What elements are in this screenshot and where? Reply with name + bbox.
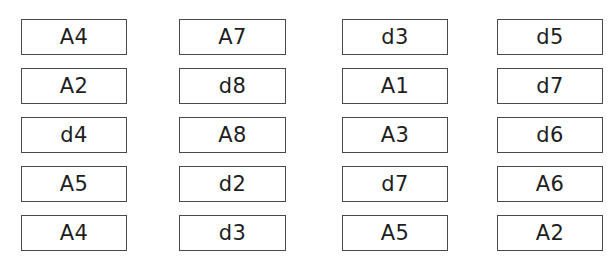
card-label: A5 <box>60 174 89 195</box>
card-r5-c3[interactable]: A5 <box>342 215 448 251</box>
card-r2-c1[interactable]: A2 <box>21 68 127 104</box>
card-label: d3 <box>219 223 247 244</box>
card-label: A2 <box>60 76 89 97</box>
card-r4-c2[interactable]: d2 <box>179 166 286 202</box>
card-r3-c3[interactable]: A3 <box>342 117 448 153</box>
card-r5-c2[interactable]: d3 <box>179 215 286 251</box>
card-label: A2 <box>536 223 565 244</box>
card-r4-c3[interactable]: d7 <box>342 166 448 202</box>
card-r3-c1[interactable]: d4 <box>21 117 127 153</box>
card-r5-c4[interactable]: A2 <box>497 215 603 251</box>
card-label: A8 <box>218 125 247 146</box>
card-r1-c4[interactable]: d5 <box>497 19 603 55</box>
card-label: A1 <box>381 76 410 97</box>
card-label: A4 <box>60 223 89 244</box>
card-r3-c2[interactable]: A8 <box>179 117 286 153</box>
card-grid: A4 A7 d3 d5 A2 d8 A1 d7 d4 A8 A3 d6 A5 d… <box>0 0 616 260</box>
card-r1-c1[interactable]: A4 <box>21 19 127 55</box>
card-label: A5 <box>381 223 410 244</box>
card-r2-c2[interactable]: d8 <box>179 68 286 104</box>
card-label: d6 <box>536 125 564 146</box>
card-r4-c4[interactable]: A6 <box>497 166 603 202</box>
card-label: d7 <box>536 76 564 97</box>
card-label: d3 <box>381 27 409 48</box>
card-label: d2 <box>219 174 247 195</box>
card-label: d4 <box>60 125 88 146</box>
card-r3-c4[interactable]: d6 <box>497 117 603 153</box>
card-label: d7 <box>381 174 409 195</box>
card-r4-c1[interactable]: A5 <box>21 166 127 202</box>
card-label: d5 <box>536 27 564 48</box>
card-r2-c3[interactable]: A1 <box>342 68 448 104</box>
card-r1-c2[interactable]: A7 <box>179 19 286 55</box>
card-label: d8 <box>219 76 247 97</box>
card-label: A3 <box>381 125 410 146</box>
card-r2-c4[interactable]: d7 <box>497 68 603 104</box>
card-label: A7 <box>218 27 247 48</box>
card-label: A4 <box>60 27 89 48</box>
card-r1-c3[interactable]: d3 <box>342 19 448 55</box>
card-r5-c1[interactable]: A4 <box>21 215 127 251</box>
card-label: A6 <box>536 174 565 195</box>
